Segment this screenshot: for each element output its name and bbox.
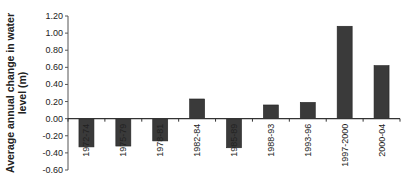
- x-axis: 1972-741975-791978-811982-841985-891988-…: [68, 119, 400, 167]
- y-tick-label: 0.80: [45, 45, 63, 55]
- x-category-label: 1975-79: [118, 124, 128, 157]
- bar-chart: Average annual change in waterlevel (m) …: [0, 0, 409, 180]
- y-tick-label: 0.00: [45, 114, 63, 124]
- bar-1988-93: [263, 105, 278, 119]
- y-tick-label: 0.40: [45, 79, 63, 89]
- y-tick-label: 1.00: [45, 28, 63, 38]
- bar-1982-84: [190, 99, 205, 119]
- y-tick-label: -0.40: [42, 148, 63, 158]
- x-category-label: 2000-04: [377, 124, 387, 157]
- x-category-label: 1988-93: [266, 124, 276, 157]
- x-category-label: 1997-2000: [340, 124, 350, 167]
- x-category-label: 1993-96: [303, 124, 313, 157]
- bar-2000-04: [374, 66, 389, 119]
- x-category-label: 1978-81: [155, 124, 165, 157]
- y-tick-label: 1.20: [45, 11, 63, 21]
- x-category-label: 1985-89: [229, 124, 239, 157]
- y-axis-label-line: Average annual change in water: [4, 13, 16, 173]
- y-tick-label: 0.20: [45, 97, 63, 107]
- y-tick-label: -0.60: [42, 165, 63, 175]
- y-axis-label-line: level (m): [16, 72, 28, 115]
- y-axis-label: Average annual change in waterlevel (m): [4, 13, 28, 173]
- x-category-label: 1972-74: [81, 124, 91, 157]
- bar-1997-2000: [337, 26, 352, 118]
- y-tick-label: 0.60: [45, 62, 63, 72]
- x-category-label: 1982-84: [192, 124, 202, 157]
- y-tick-label: -0.20: [42, 131, 63, 141]
- bar-1993-96: [300, 102, 315, 118]
- y-axis: 1.201.000.800.600.400.200.00-0.20-0.40-0…: [42, 11, 68, 175]
